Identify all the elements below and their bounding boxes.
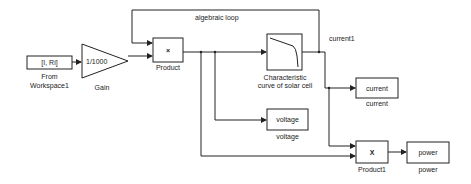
from-workspace-label-1: From <box>41 73 58 80</box>
voltage-scope-block[interactable]: voltage voltage <box>267 109 308 141</box>
characteristic-label-1: Characteristic <box>264 74 307 81</box>
power-scope-block[interactable]: power power <box>407 142 449 174</box>
characteristic-curve-block[interactable]: Characteristic curve of solar cell <box>258 34 313 89</box>
gain-content: 1/1000 <box>86 58 108 65</box>
product1-block[interactable]: X Product1 <box>356 141 388 173</box>
current-content: current <box>366 85 388 92</box>
product-block[interactable]: × Product <box>153 38 183 71</box>
product-content: × <box>166 47 170 54</box>
power-label: power <box>418 166 438 174</box>
characteristic-label-2: curve of solar cell <box>258 82 313 89</box>
product1-label: Product1 <box>358 166 386 173</box>
line-current-to-product1[interactable] <box>329 88 355 146</box>
gain-label: Gain <box>95 84 110 91</box>
current-scope-block[interactable]: current current <box>356 78 398 107</box>
from-workspace-label-2: Workspace1 <box>30 82 69 90</box>
current-label: current <box>366 100 388 107</box>
signal-label-current1: current1 <box>329 35 355 42</box>
product1-content: X <box>370 149 375 156</box>
from-workspace-content: [I, Ri] <box>41 59 57 67</box>
product-label: Product <box>156 64 180 71</box>
algebraic-loop-annotation: algebraic loop <box>195 14 239 22</box>
simulink-diagram: [I, Ri] From Workspace1 1/1000 Gain × Pr… <box>0 0 471 184</box>
gain-block[interactable]: 1/1000 Gain <box>82 44 128 91</box>
power-content: power <box>418 149 438 157</box>
voltage-content: voltage <box>276 116 299 124</box>
from-workspace-block[interactable]: [I, Ri] From Workspace1 <box>27 56 72 90</box>
voltage-label: voltage <box>276 133 299 141</box>
